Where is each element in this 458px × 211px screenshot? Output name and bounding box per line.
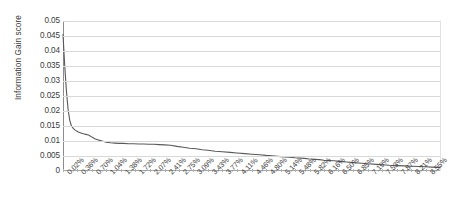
x-tick-mark (338, 169, 339, 172)
y-tick-label: 0.005 (40, 151, 60, 160)
gridline (63, 141, 440, 142)
x-tick-mark (63, 169, 64, 172)
gridline (63, 51, 440, 52)
x-tick-mark (121, 169, 122, 172)
x-tick-mark (426, 169, 427, 172)
x-tick-mark (106, 169, 107, 172)
x-tick-mark (411, 169, 412, 172)
series-line (63, 35, 440, 168)
plot-area (63, 20, 441, 171)
x-tick-mark (193, 169, 194, 172)
y-tick-label: 0.04 (44, 46, 60, 55)
y-tick-label: 0.045 (40, 31, 60, 40)
x-tick-mark (382, 169, 383, 172)
gridline (63, 81, 440, 82)
gridline (63, 111, 440, 112)
y-tick-label: 0.01 (44, 136, 60, 145)
gridline (63, 21, 440, 22)
y-tick-label: 0.035 (40, 61, 60, 70)
x-tick-mark (266, 169, 267, 172)
x-tick-mark (135, 169, 136, 172)
y-tick-label: 0.015 (40, 121, 60, 130)
x-tick-mark (222, 169, 223, 172)
information-gain-chart: Information Gain score 0.050.0450.040.03… (0, 0, 458, 211)
x-tick-mark (281, 169, 282, 172)
y-tick-label: 0.025 (40, 91, 60, 100)
x-axis-tick-labels: 0.02%0.36%0.70%1.04%1.38%1.72%2.07%2.41%… (0, 170, 458, 211)
x-tick-mark (353, 169, 354, 172)
x-tick-mark (310, 169, 311, 172)
x-tick-mark (295, 169, 296, 172)
y-tick-label: 0.02 (44, 106, 60, 115)
y-tick-label: 0.05 (44, 16, 60, 25)
x-tick-mark (252, 169, 253, 172)
x-tick-mark (368, 169, 369, 172)
x-tick-mark (237, 169, 238, 172)
gridline (63, 96, 440, 97)
x-tick-mark (92, 169, 93, 172)
x-tick-mark (150, 169, 151, 172)
y-tick-label: 0.03 (44, 76, 60, 85)
x-tick-mark (208, 169, 209, 172)
gridline (63, 126, 440, 127)
gridline (63, 36, 440, 37)
x-tick-mark (165, 169, 166, 172)
x-tick-mark (397, 169, 398, 172)
x-tick-mark (324, 169, 325, 172)
gridline (63, 66, 440, 67)
x-tick-mark (179, 169, 180, 172)
x-tick-mark (77, 169, 78, 172)
